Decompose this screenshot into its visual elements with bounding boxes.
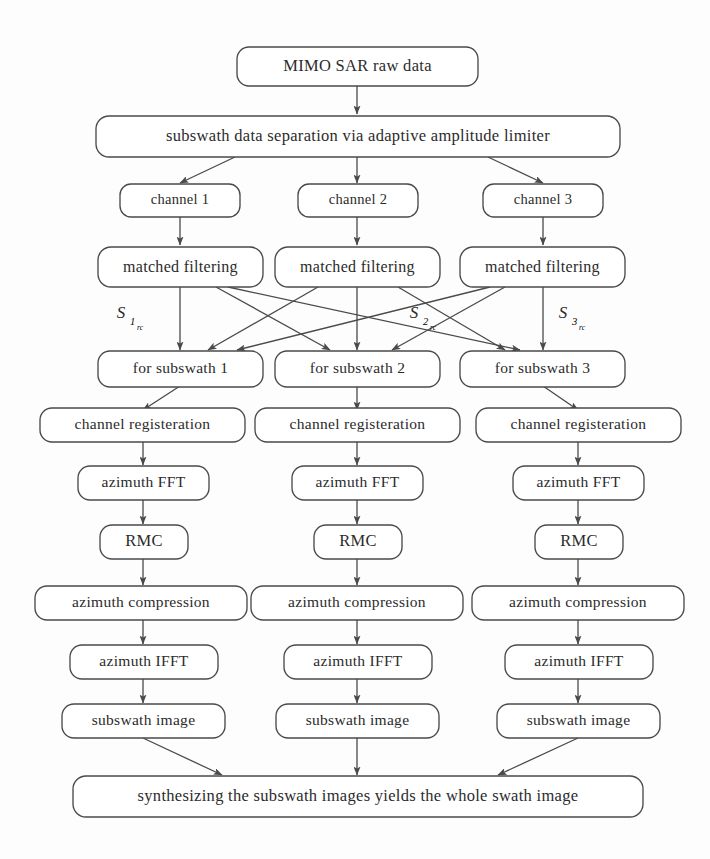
- node-rmc-3[interactable]: RMC: [535, 525, 623, 559]
- node-subswath-image-2[interactable]: subswath image: [276, 704, 439, 738]
- edge-subswath-3-to-registeration-3: [543, 386, 578, 410]
- edge-image-1-to-synthesis: [143, 738, 222, 775]
- node-matched-filtering-3-label: matched filtering: [485, 258, 600, 276]
- node-for-subswath-2-label: for subswath 2: [310, 359, 405, 376]
- node-synthesis[interactable]: synthesizing the subswath images yields …: [73, 776, 643, 817]
- node-matched-filtering-1[interactable]: matched filtering: [98, 247, 263, 287]
- node-azimuth-ifft-1-label: azimuth IFFT: [99, 652, 189, 669]
- node-rmc-3-label: RMC: [560, 531, 598, 550]
- signal-label-s3rc-sub: 3: [571, 316, 577, 327]
- node-matched-filtering-1-label: matched filtering: [123, 258, 238, 276]
- node-azimuth-ifft-3[interactable]: azimuth IFFT: [505, 645, 653, 679]
- flowchart-canvas: MIMO SAR raw data subswath data separati…: [0, 0, 710, 859]
- node-azimuth-compression-3-label: azimuth compression: [509, 593, 647, 610]
- node-azimuth-ifft-3-label: azimuth IFFT: [534, 652, 624, 669]
- signal-label-s3rc: S 3 rc: [559, 303, 586, 332]
- node-channel-registeration-3-label: channel registeration: [511, 415, 647, 432]
- node-separation[interactable]: subswath data separation via adaptive am…: [96, 116, 620, 157]
- node-azimuth-fft-2[interactable]: azimuth FFT: [292, 466, 423, 500]
- edge-separation-to-channel-3: [488, 157, 543, 183]
- node-channel-registeration-1-label: channel registeration: [75, 415, 211, 432]
- node-azimuth-fft-2-label: azimuth FFT: [316, 473, 400, 490]
- node-azimuth-ifft-2-label: azimuth IFFT: [313, 652, 403, 669]
- edge-separation-to-channel-1: [180, 157, 235, 183]
- signal-label-s1rc-base: S: [117, 303, 126, 322]
- node-channel-1[interactable]: channel 1: [120, 184, 240, 217]
- node-subswath-image-1[interactable]: subswath image: [62, 704, 225, 738]
- node-rmc-1[interactable]: RMC: [100, 525, 188, 559]
- node-synthesis-label: synthesizing the subswath images yields …: [138, 786, 579, 805]
- edge-image-3-to-synthesis: [498, 738, 578, 775]
- node-subswath-image-3[interactable]: subswath image: [497, 704, 660, 738]
- node-azimuth-compression-3[interactable]: azimuth compression: [472, 586, 684, 620]
- node-raw-data[interactable]: MIMO SAR raw data: [237, 47, 478, 86]
- signal-label-s3rc-subsub: rc: [579, 323, 586, 332]
- node-azimuth-ifft-2[interactable]: azimuth IFFT: [284, 645, 432, 679]
- node-rmc-1-label: RMC: [125, 531, 163, 550]
- node-for-subswath-1-label: for subswath 1: [133, 359, 228, 376]
- node-for-subswath-2[interactable]: for subswath 2: [275, 351, 440, 387]
- node-for-subswath-3[interactable]: for subswath 3: [460, 351, 625, 387]
- node-rmc-2-label: RMC: [339, 531, 377, 550]
- signal-label-s2rc-sub: 2: [423, 316, 429, 327]
- node-for-subswath-1[interactable]: for subswath 1: [98, 351, 263, 387]
- node-azimuth-fft-1[interactable]: azimuth FFT: [78, 466, 209, 500]
- node-matched-filtering-2[interactable]: matched filtering: [275, 247, 440, 287]
- signal-label-s1rc-subsub: rc: [137, 323, 144, 332]
- signal-label-s2rc-base: S: [410, 303, 419, 322]
- node-channel-registeration-2-label: channel registeration: [290, 415, 426, 432]
- node-channel-registeration-3[interactable]: channel registeration: [476, 408, 681, 442]
- node-subswath-image-2-label: subswath image: [306, 711, 410, 728]
- node-channel-registeration-1[interactable]: channel registeration: [40, 408, 245, 442]
- node-raw-data-label: MIMO SAR raw data: [283, 56, 432, 75]
- node-azimuth-compression-2-label: azimuth compression: [288, 593, 426, 610]
- node-channel-2-label: channel 2: [329, 191, 388, 207]
- signal-label-s2rc-subsub: rc: [430, 323, 437, 332]
- node-azimuth-compression-1-label: azimuth compression: [72, 593, 210, 610]
- node-azimuth-compression-1[interactable]: azimuth compression: [35, 586, 247, 620]
- signal-label-s1rc: S 1 rc: [117, 303, 144, 332]
- signal-label-s3rc-base: S: [559, 303, 568, 322]
- node-channel-1-label: channel 1: [151, 191, 210, 207]
- edge-mf-2-to-subswath-1: [208, 287, 318, 350]
- node-azimuth-fft-3-label: azimuth FFT: [537, 473, 621, 490]
- node-rmc-2[interactable]: RMC: [314, 525, 402, 559]
- node-azimuth-fft-3[interactable]: azimuth FFT: [513, 466, 644, 500]
- signal-label-s1rc-sub: 1: [130, 316, 135, 327]
- node-azimuth-compression-2[interactable]: azimuth compression: [251, 586, 463, 620]
- node-subswath-image-1-label: subswath image: [92, 711, 196, 728]
- node-azimuth-fft-1-label: azimuth FFT: [102, 473, 186, 490]
- node-matched-filtering-3[interactable]: matched filtering: [460, 247, 625, 287]
- node-matched-filtering-2-label: matched filtering: [300, 258, 415, 276]
- node-channel-2[interactable]: channel 2: [298, 184, 418, 217]
- edge-subswath-1-to-registeration-1: [143, 386, 180, 410]
- flowchart-diagram: MIMO SAR raw data subswath data separati…: [0, 0, 710, 859]
- node-channel-registeration-2[interactable]: channel registeration: [255, 408, 460, 442]
- node-separation-label: subswath data separation via adaptive am…: [166, 126, 550, 145]
- node-channel-3[interactable]: channel 3: [483, 184, 603, 217]
- node-subswath-image-3-label: subswath image: [527, 711, 631, 728]
- node-channel-3-label: channel 3: [514, 191, 573, 207]
- node-azimuth-ifft-1[interactable]: azimuth IFFT: [70, 645, 218, 679]
- node-for-subswath-3-label: for subswath 3: [495, 359, 590, 376]
